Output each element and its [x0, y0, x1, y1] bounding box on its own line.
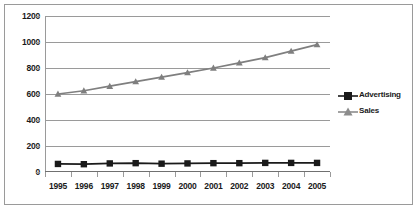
x-tick-mark	[226, 172, 227, 177]
y-tick-mark	[36, 42, 40, 43]
x-tick-mark	[97, 172, 98, 177]
series-plot	[45, 16, 330, 172]
data-point-square	[210, 160, 216, 166]
x-tick-mark	[200, 172, 201, 177]
data-point-square	[314, 160, 320, 166]
x-tick-label: 2000	[178, 181, 196, 191]
x-tick-mark	[330, 172, 331, 177]
x-tick-mark	[304, 172, 305, 177]
legend-label-advertising: Advertising	[358, 90, 401, 99]
x-axis-ticks	[45, 172, 330, 178]
series-sales	[55, 41, 321, 97]
x-tick-label: 1996	[75, 181, 93, 191]
legend-label-sales: Sales	[358, 106, 379, 115]
x-tick-mark	[175, 172, 176, 177]
x-tick-label: 2004	[282, 181, 300, 191]
y-axis-labels: 020040060080010001200	[0, 16, 40, 172]
x-tick-label: 2002	[230, 181, 248, 191]
x-tick-label: 1998	[127, 181, 145, 191]
legend-marker-triangle-icon	[338, 104, 358, 116]
chart-container: 020040060080010001200 199519961997199819…	[0, 0, 417, 209]
plot-area	[45, 16, 330, 172]
x-tick-mark	[71, 172, 72, 177]
x-axis-labels: 1995199619971998199920002001200220032004…	[45, 181, 330, 195]
legend-marker-square-icon	[338, 88, 358, 100]
series-advertising	[55, 160, 321, 168]
data-point-square	[236, 160, 242, 166]
chart-legend: Advertising Sales	[338, 86, 412, 118]
legend-item-sales: Sales	[338, 102, 412, 118]
x-tick-mark	[278, 172, 279, 177]
x-tick-label: 2003	[256, 181, 274, 191]
data-point-square	[55, 161, 61, 167]
data-point-square	[132, 160, 138, 166]
x-tick-label: 1995	[49, 181, 67, 191]
data-point-square	[184, 160, 190, 166]
y-tick-mark	[36, 68, 40, 69]
y-tick-mark	[36, 94, 40, 95]
data-point-square	[288, 160, 294, 166]
data-point-triangle	[314, 41, 321, 47]
x-tick-mark	[149, 172, 150, 177]
y-tick-mark	[36, 146, 40, 147]
y-tick-mark	[36, 16, 40, 17]
x-tick-mark	[123, 172, 124, 177]
x-tick-mark	[45, 172, 46, 177]
x-tick-label: 2005	[308, 181, 326, 191]
data-point-square	[107, 160, 113, 166]
x-tick-label: 1999	[153, 181, 171, 191]
x-tick-label: 1997	[101, 181, 119, 191]
x-tick-mark	[252, 172, 253, 177]
data-point-square	[158, 160, 164, 166]
y-tick-mark	[36, 120, 40, 121]
data-point-square	[81, 161, 87, 167]
data-point-square	[262, 160, 268, 166]
legend-item-advertising: Advertising	[338, 86, 412, 102]
y-tick-mark	[36, 172, 40, 173]
x-tick-label: 2001	[204, 181, 222, 191]
